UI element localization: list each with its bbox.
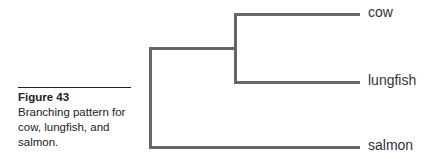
cow-branch — [234, 13, 360, 16]
figure-description: Branching pattern for cow, lungfish, and… — [18, 106, 125, 148]
leaf-label-salmon: salmon — [368, 138, 413, 152]
salmon-branch — [149, 146, 360, 149]
figure-caption: Figure 43 Branching pattern for cow, lun… — [18, 90, 148, 150]
leaf-label-lungfish: lungfish — [368, 73, 416, 87]
leaf-label-cow: cow — [368, 5, 393, 19]
root-vertical-branch — [149, 47, 152, 149]
figure-title: Figure 43 — [18, 90, 148, 105]
lungfish-branch — [234, 81, 360, 84]
inner-node-branch — [149, 47, 237, 50]
inner-vertical-branch — [234, 13, 237, 84]
caption-rule — [18, 87, 131, 88]
